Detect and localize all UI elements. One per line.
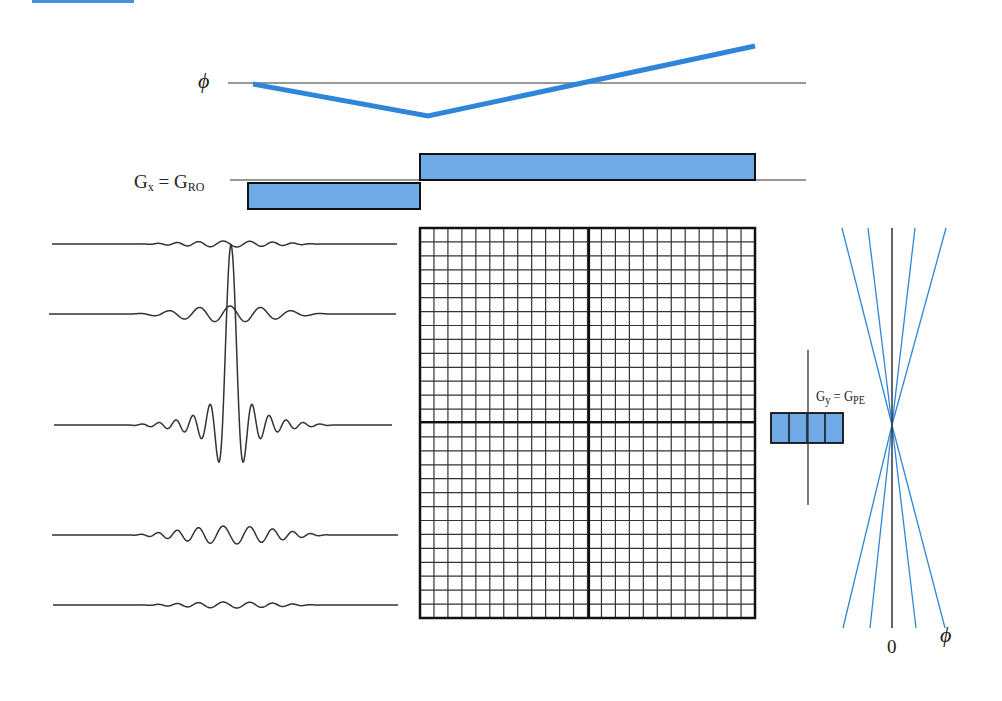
- readout-gradient-label: Gx = GRO: [134, 172, 204, 193]
- phase-axis-label: ϕ: [198, 70, 209, 92]
- top-bar: [32, 0, 134, 3]
- phase-encode-gradient-label: Gy = GPE: [816, 389, 865, 406]
- mri-k-space-diagram: ϕ Gx = GRO Gy = GPE 0 ϕ: [0, 0, 1002, 701]
- echo-signal-5: [53, 602, 398, 608]
- gx-symbol: G: [134, 171, 148, 192]
- phase-fan-line: [843, 425, 892, 628]
- gro-subscript: RO: [188, 180, 205, 194]
- gy-equals: = G: [830, 388, 853, 404]
- gradient-lobe-positive: [420, 154, 755, 180]
- phase-fan-label: ϕ: [940, 624, 951, 646]
- echo-signal-1: [52, 241, 397, 247]
- gradient-lobe-negative: [248, 183, 420, 209]
- gy-symbol: G: [816, 388, 825, 404]
- diagram-canvas: [0, 0, 1002, 701]
- echo-signal-3: [54, 245, 392, 462]
- phase-fan-line: [892, 425, 945, 628]
- gx-equals: = G: [154, 171, 188, 192]
- echo-signal-2: [49, 306, 396, 322]
- zero-label: 0: [887, 637, 897, 656]
- phase-fan-line: [868, 228, 892, 425]
- phase-fan-line: [892, 228, 915, 425]
- phase-curve: [253, 46, 755, 116]
- echo-signal-4: [52, 526, 398, 544]
- gpe-subscript: PE: [853, 393, 865, 407]
- phase-fan-line: [870, 425, 892, 628]
- phase-fan-line: [892, 425, 916, 628]
- phase-fan-line: [892, 228, 946, 425]
